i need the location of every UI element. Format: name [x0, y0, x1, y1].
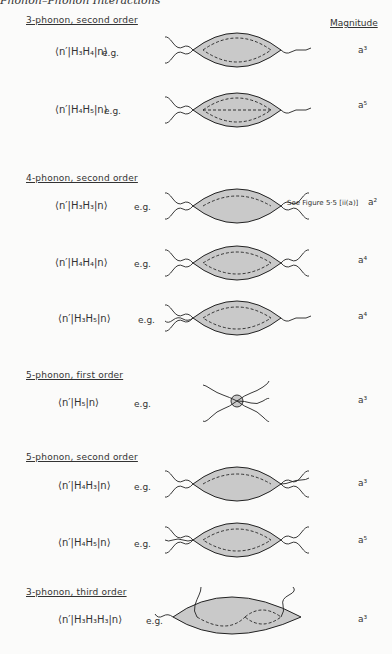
feynman-diagrams	[0, 0, 392, 654]
diagram-h4h5	[165, 93, 311, 127]
diagram-h3h3	[165, 189, 309, 223]
diagram-h4h4	[165, 246, 309, 280]
diagram-h4h5-five-phonon	[165, 523, 309, 557]
diagram-h5	[203, 381, 269, 422]
diagram-h3h3h3	[155, 587, 301, 634]
diagram-h3h4	[165, 33, 311, 67]
diagram-h4h3	[165, 467, 309, 501]
diagram-h3h5	[165, 301, 311, 335]
